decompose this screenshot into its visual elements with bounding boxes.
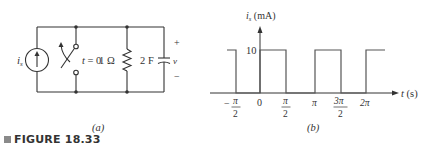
- source-arrow-icon: [35, 51, 40, 56]
- caption-square-icon: [4, 136, 11, 143]
- y-axis-label: is (mA): [246, 10, 275, 22]
- resistor-label: 1 Ω: [99, 55, 115, 66]
- plus-sign: +: [174, 37, 180, 48]
- x-tick-3pi-2-num: 3π: [333, 96, 344, 106]
- x-tick-neg-pi-2-den: 2: [233, 109, 238, 119]
- switch-contact-bottom: [74, 70, 79, 75]
- capacitor-label: 2 F: [140, 55, 154, 66]
- junction-dot: [125, 25, 129, 29]
- x-tick-labels: − π 2 0 π 2 π 3π 2 2π: [224, 96, 370, 119]
- switch-arrow-icon: [59, 42, 64, 47]
- junction-dot: [125, 90, 129, 94]
- source-label: is: [17, 54, 23, 68]
- figure-caption: FIGURE 18.33: [4, 133, 101, 146]
- x-tick-3pi-2-den: 2: [338, 109, 343, 119]
- subfigure-b-label: (b): [307, 122, 320, 134]
- junction-dot: [74, 90, 78, 94]
- square-wave-trace: [227, 50, 385, 93]
- caption-text: FIGURE 18.33: [14, 133, 101, 146]
- square-wave-graph: [210, 26, 399, 96]
- x-tick-pi-2-den: 2: [283, 109, 288, 119]
- voltage-label: v: [173, 56, 177, 66]
- junction-dot: [74, 25, 78, 29]
- switch-arc: [61, 45, 70, 62]
- x-tick-sign: −: [224, 98, 230, 109]
- x-tick-pi: π: [312, 98, 317, 108]
- switch-contact-top: [74, 44, 79, 49]
- y-axis-arrow-icon: [258, 26, 263, 33]
- x-tick-2pi: 2π: [360, 98, 370, 108]
- x-axis-arrow-icon: [392, 91, 399, 96]
- x-tick-neg-pi-2-num: π: [233, 96, 238, 106]
- resistor-icon: [123, 49, 131, 71]
- figure-canvas: is t = 0 1 Ω 2 F + v − (a) is (mA) 10 t …: [0, 0, 435, 153]
- y-tick-10: 10: [246, 45, 257, 56]
- minus-sign: −: [174, 71, 180, 82]
- x-tick-0: 0: [257, 97, 262, 108]
- x-axis-label: t (s): [401, 88, 418, 100]
- x-tick-pi-2-num: π: [283, 96, 288, 106]
